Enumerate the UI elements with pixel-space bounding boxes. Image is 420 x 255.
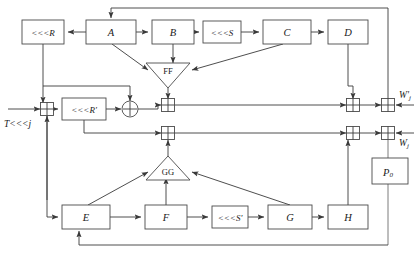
xor-lower-right-inner[interactable] [347, 127, 360, 140]
box-d-label: D [343, 27, 352, 38]
box-rot-s[interactable]: <<<S [203, 21, 241, 43]
box-rot-s-label: <<<S [211, 28, 234, 38]
box-c[interactable]: C [263, 20, 311, 44]
wire-c-to-ff [192, 44, 283, 70]
box-g-label: G [286, 212, 294, 223]
wire-bottom-feedback [79, 231, 388, 245]
box-c-label: C [283, 27, 291, 38]
output-label-w-prime: W'j [399, 90, 411, 102]
triangle-gg-label: GG [162, 167, 174, 177]
box-d[interactable]: D [328, 20, 368, 44]
box-rot-s-prime[interactable]: <<<S' [212, 206, 248, 228]
diagram-canvas: <<<R A B <<<S C D FF [0, 0, 420, 255]
box-rot-r-label: <<<R [31, 28, 55, 38]
xor-input[interactable] [41, 103, 54, 116]
box-h[interactable]: H [328, 205, 368, 229]
box-f-label: F [162, 212, 170, 223]
box-a[interactable]: A [86, 20, 136, 44]
wire-e-to-gg [88, 172, 148, 205]
xor-lower-mid[interactable] [162, 127, 175, 140]
box-b-label: B [170, 27, 177, 38]
xor-upper-mid[interactable] [162, 99, 175, 112]
block-diagram-root: <<<R A B <<<S C D FF [0, 0, 420, 255]
box-rot-r-prime[interactable]: <<<R' [62, 98, 106, 120]
box-g[interactable]: G [268, 205, 312, 229]
wire-circlexor-to-midxor [138, 105, 161, 109]
box-a-label: A [107, 27, 115, 38]
circle-xor-plus[interactable] [122, 101, 138, 117]
triangle-ff[interactable]: FF [146, 63, 190, 88]
box-b[interactable]: B [152, 20, 194, 44]
input-label-t: T<<<j [4, 119, 32, 129]
wire-g-to-gg [192, 172, 290, 205]
wire-xor-down-to-e [47, 116, 58, 217]
triangle-gg[interactable]: GG [146, 156, 190, 180]
box-e[interactable]: E [62, 205, 110, 229]
box-rot-r[interactable]: <<<R [22, 20, 64, 44]
triangle-ff-label: FF [163, 66, 173, 76]
box-rot-s-prime-label: <<<S' [218, 213, 244, 223]
xor-upper-right-outer[interactable] [382, 99, 395, 112]
box-f[interactable]: F [145, 205, 187, 229]
wire-d-to-xor [348, 44, 353, 99]
output-label-w: Wj [399, 138, 409, 150]
box-p0[interactable]: P0 [372, 158, 408, 184]
wire-a-to-ff [112, 44, 148, 70]
xor-lower-right-outer[interactable] [382, 127, 395, 140]
xor-upper-right-inner[interactable] [347, 99, 360, 112]
box-h-label: H [343, 212, 353, 223]
wire-rotrp-tap-to-lowerxor [84, 120, 161, 133]
box-rot-r-prime-label: <<<R' [71, 105, 98, 115]
box-e-label: E [82, 212, 90, 223]
